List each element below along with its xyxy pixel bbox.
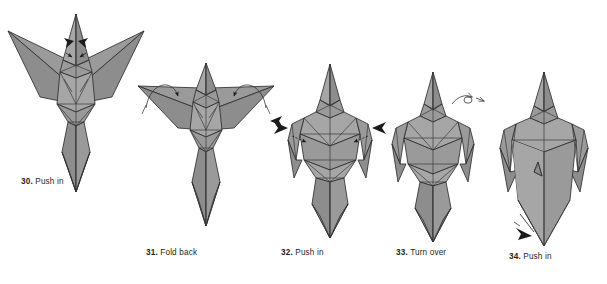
figure-step-30	[8, 14, 144, 192]
step-instruction-30: Push in	[35, 177, 63, 186]
step-instruction-31: Fold back	[160, 248, 197, 257]
step-caption-33: 33. Turn over	[396, 248, 446, 257]
step-instruction-32: Push in	[295, 248, 323, 257]
origami-diagram-canvas	[0, 0, 607, 284]
step-number-31: 31.	[146, 248, 158, 257]
step-number-34: 34.	[509, 252, 521, 261]
step-caption-34: 34. Push in	[509, 252, 552, 261]
figure-33-turn-over-arrow	[452, 96, 484, 104]
step-number-33: 33.	[396, 248, 408, 257]
step-instruction-34: Push in	[523, 252, 551, 261]
step-caption-31: 31. Fold back	[146, 248, 197, 257]
figure-step-31	[138, 63, 282, 226]
step-number-30: 30.	[21, 177, 33, 186]
figure-step-32	[274, 64, 386, 238]
figure-step-34	[500, 72, 588, 246]
figure-step-33	[392, 72, 484, 242]
step-caption-32: 32. Push in	[281, 248, 324, 257]
step-number-32: 32.	[281, 248, 293, 257]
step-caption-30: 30. Push in	[21, 177, 64, 186]
step-instruction-33: Turn over	[410, 248, 446, 257]
